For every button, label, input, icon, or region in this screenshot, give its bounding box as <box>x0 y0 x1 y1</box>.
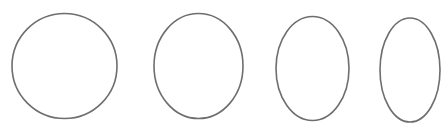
ellipse-sequence-diagram <box>0 0 445 134</box>
ellipse-shape-narrow <box>380 18 440 122</box>
ellipse-shape-wide <box>154 14 243 119</box>
ellipse-shape-medium <box>276 17 349 121</box>
circle-shape <box>12 14 117 119</box>
